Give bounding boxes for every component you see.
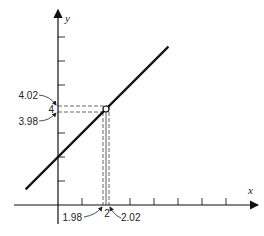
x-center-label: 2 [104,208,110,219]
x-low-label: 1.98 [63,212,83,223]
dashed-guides [58,106,109,205]
x-axis-label: x [247,184,253,196]
point-marker [103,106,109,112]
x-high-pointer-arrow [110,207,121,218]
y-axis-label: y [64,12,70,24]
y-high-label: 4.02 [19,90,39,101]
y-low-label: 3.98 [19,116,39,127]
axis-ticks [58,37,226,205]
function-line [26,47,169,190]
x-high-label: 2.02 [121,212,141,223]
x-low-pointer-arrow [84,207,102,217]
y-center-label: 4 [48,104,54,115]
function-graph: x y 2 1.98 2.02 4 3.98 4.02 [0,0,264,236]
